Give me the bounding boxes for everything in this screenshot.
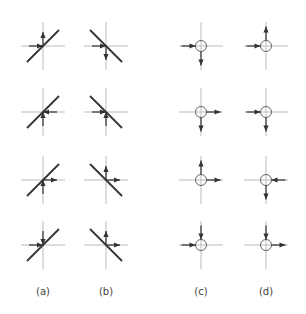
cell-b-3-v-arrow-head xyxy=(103,166,108,172)
cell-b-4-v-arrow-head xyxy=(103,231,108,237)
panel-label-b: (b) xyxy=(99,286,113,297)
cell-c-1-h-arrow-head xyxy=(190,43,196,48)
cell-c-2-v-arrow-head xyxy=(198,126,203,132)
panel-label-c: (c) xyxy=(194,286,207,297)
cell-d-4-v-arrow-head xyxy=(263,234,268,240)
cell-d-2-v-arrow-head xyxy=(263,126,268,132)
cell-b-3-h-arrow-head xyxy=(114,177,120,182)
cell-a-1-v-arrow-head xyxy=(40,32,45,38)
cell-c-2-h-arrow-head xyxy=(215,109,221,114)
cell-d-2-h-arrow-head xyxy=(255,109,261,114)
cell-d-3-v-arrow-head xyxy=(263,194,268,200)
cell-d-1-v-arrow-head xyxy=(263,27,268,33)
cell-c-4-v-arrow-head xyxy=(198,234,203,240)
cell-c-3-h-arrow-head xyxy=(215,177,221,182)
panel-label-d: (d) xyxy=(259,286,273,297)
diagram-canvas xyxy=(0,0,306,314)
cell-c-3-v-arrow-head xyxy=(198,161,203,167)
cell-c-1-v-arrow-head xyxy=(198,60,203,66)
cell-d-1-h-arrow-head xyxy=(255,43,261,48)
panel-label-a: (a) xyxy=(36,286,50,297)
cell-c-4-h-arrow-head xyxy=(190,242,196,247)
cell-b-4-h-arrow-head xyxy=(114,242,120,247)
cell-d-4-h-arrow-head xyxy=(280,242,286,247)
cell-d-3-h-arrow-head xyxy=(272,177,278,182)
cell-a-3-h-arrow-head xyxy=(51,177,57,182)
cell-b-1-v-arrow-head xyxy=(103,54,108,60)
